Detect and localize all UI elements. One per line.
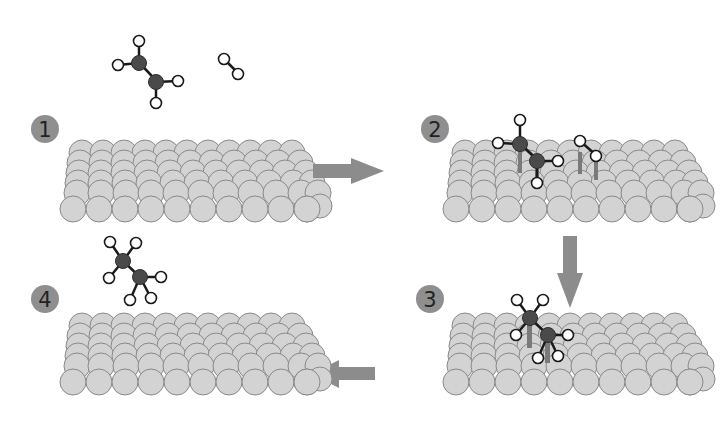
step-2-badge: 2 bbox=[421, 115, 449, 143]
step-4-badge: 4 bbox=[31, 285, 59, 313]
step-4: 4 bbox=[31, 237, 332, 396]
step-1: 1 bbox=[31, 36, 332, 223]
svg-text:1: 1 bbox=[38, 118, 51, 142]
arrow-down bbox=[557, 236, 583, 308]
svg-text:2: 2 bbox=[428, 118, 441, 142]
ethane-molecule bbox=[104, 237, 167, 306]
svg-text:3: 3 bbox=[423, 288, 436, 312]
hydrogen-molecule bbox=[219, 54, 244, 80]
step-2: 2 bbox=[421, 115, 715, 223]
step-3: 3 bbox=[416, 285, 715, 395]
svg-text:4: 4 bbox=[38, 288, 51, 312]
metal-surface-4 bbox=[60, 313, 332, 395]
ethylene-molecule bbox=[113, 36, 184, 109]
metal-surface-3 bbox=[443, 313, 715, 395]
hydrogenation-diagram: 1 2 bbox=[0, 0, 727, 430]
metal-surface-1 bbox=[60, 140, 332, 222]
step-1-badge: 1 bbox=[31, 115, 59, 143]
step-3-badge: 3 bbox=[416, 285, 444, 313]
